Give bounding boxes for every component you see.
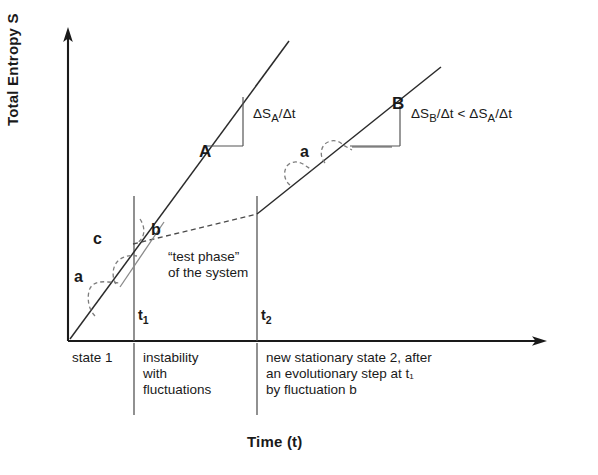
y-axis-title: Total Entropy S (4, 0, 22, 126)
table-cell-state-1: state 1 (72, 350, 113, 366)
table-cell-new-state: new stationary state 2, after an evoluti… (266, 350, 432, 398)
slope-b-subscript: B (429, 112, 437, 124)
slope-a-formula: ΔSA/Δt (253, 106, 296, 125)
entropy-evolution-figure: Total Entropy S Time (t) A B ΔSA/Δt ΔSB/… (0, 0, 598, 475)
t1-tick-label: t1 (138, 307, 149, 326)
fluctuation-a-left-label: a (74, 268, 83, 287)
fluctuation-b-label: b (151, 221, 161, 240)
test-phase-note: “test phase” of the system (168, 249, 248, 281)
slope-a-delta-s: ΔS (253, 106, 271, 121)
table-cell-new-state-line-3: by fluctuation b (266, 382, 432, 398)
curve-b-group (257, 67, 441, 214)
test-phase-note-line-1: “test phase” (168, 249, 248, 265)
table-cell-instability: instability with fluctuations (143, 350, 211, 398)
fluctuation-a-right-label: a (300, 143, 309, 162)
diagram-canvas (0, 0, 598, 475)
t2-tick-label: t2 (261, 307, 272, 326)
x-axis-title: Time (t) (247, 433, 303, 451)
slope-a-subscript: A (271, 112, 279, 124)
slope-b-rest: /Δt < ΔS (437, 106, 488, 121)
curve-a-label: A (199, 142, 211, 162)
slope-b-rest-2: /Δt (495, 106, 512, 121)
table-cell-instability-line-1: instability (143, 350, 211, 366)
table-cell-new-state-line-2: an evolutionary step at t₁ (266, 366, 432, 382)
t2-tick-subscript: 2 (266, 314, 272, 326)
slope-b-delta-s: ΔS (411, 106, 429, 121)
test-phase-note-line-2: of the system (168, 265, 248, 281)
curve-a-group (70, 41, 289, 339)
fluctuation-c-label: c (93, 230, 102, 249)
curve-b-label: B (392, 94, 404, 114)
table-cell-new-state-line-1: new stationary state 2, after (266, 350, 432, 366)
axes-group (63, 27, 547, 346)
fluctuation-a-left-path (88, 282, 120, 316)
t1-tick-subscript: 1 (143, 314, 149, 326)
fluctuation-a-left-group (88, 282, 120, 316)
curve-a-line (70, 41, 289, 339)
table-cell-instability-line-3: fluctuations (143, 382, 211, 398)
slope-b-formula: ΔSB/Δt < ΔSA/Δt (411, 106, 512, 125)
table-cell-instability-line-2: with (143, 366, 211, 382)
curve-b-line (257, 67, 441, 214)
slope-a-rest: /Δt (279, 106, 296, 121)
slope-triangle-a (207, 97, 243, 146)
table-cell-state-1-line-1: state 1 (72, 350, 113, 366)
